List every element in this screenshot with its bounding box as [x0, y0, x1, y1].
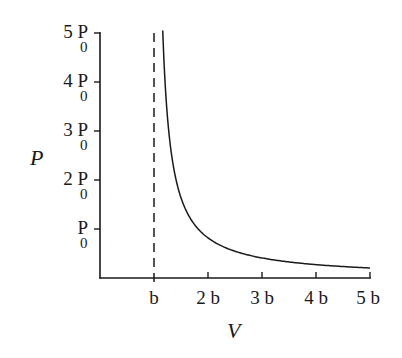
- y-tick-labels: 5 P 0 4 P 0 3 P 0 2 P 0 P 0: [63, 21, 88, 251]
- y-label-p0-sub: 0: [80, 235, 88, 251]
- x-axis-title: V: [227, 318, 243, 343]
- y-label-4p0-sub: 0: [80, 88, 88, 104]
- x-tick-labels: b 2 b 3 b 4 b 5 b: [149, 287, 380, 308]
- x-label-4b: 4 b: [304, 287, 328, 308]
- y-label-5p0-sub: 0: [80, 39, 88, 55]
- y-label-3p0-sub: 0: [80, 137, 88, 153]
- x-label-2b: 2 b: [196, 287, 220, 308]
- x-ticks: [208, 272, 370, 278]
- y-axis-title: P: [29, 145, 43, 170]
- pv-curve: [163, 31, 370, 268]
- pv-chart: 5 P 0 4 P 0 3 P 0 2 P 0 P 0 b 2 b 3 b 4 …: [0, 0, 402, 358]
- y-label-2p0-sub: 0: [80, 186, 88, 202]
- x-label-3b: 3 b: [250, 287, 274, 308]
- y-ticks: [94, 33, 100, 229]
- x-label-5b: 5 b: [356, 287, 380, 308]
- axes: [99, 32, 371, 279]
- x-label-b: b: [149, 287, 159, 308]
